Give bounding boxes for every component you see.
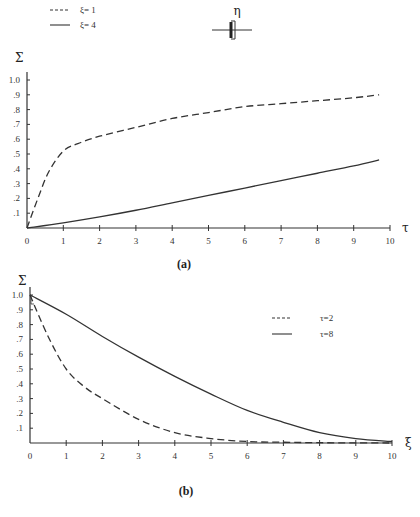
figure-canvas: η 012345678910.1.2.3.4.5.6.7.8.91.0Στξ= … — [0, 0, 420, 517]
x-tick-label: 9 — [354, 451, 359, 461]
x-tick-label: 7 — [279, 236, 284, 246]
y-tick-label: .2 — [13, 193, 20, 203]
x-tick-label: 6 — [243, 236, 248, 246]
x-axis-label: ξ — [405, 436, 412, 450]
series-line — [27, 160, 379, 228]
y-tick-label: .6 — [13, 134, 20, 144]
y-tick-label: .6 — [16, 349, 23, 359]
x-tick-label: 6 — [245, 451, 250, 461]
figure-caption: (b) — [179, 484, 194, 498]
y-tick-label: .1 — [13, 208, 20, 218]
x-tick-label: 4 — [173, 451, 178, 461]
y-tick-label: .4 — [13, 164, 20, 174]
y-tick-label: .1 — [16, 423, 23, 433]
y-tick-label: .5 — [13, 149, 20, 159]
y-axis-label: Σ — [15, 51, 23, 65]
x-tick-label: 5 — [206, 236, 211, 246]
legend-label: ξ= 4 — [80, 20, 96, 30]
y-tick-label: .3 — [13, 179, 20, 189]
x-tick-label: 8 — [317, 451, 322, 461]
y-tick-label: .3 — [16, 394, 23, 404]
y-tick-label: .7 — [13, 119, 20, 129]
y-tick-label: .5 — [16, 364, 23, 374]
legend-label: τ=2 — [320, 313, 333, 323]
y-tick-label: .8 — [13, 105, 20, 115]
x-tick-label: 9 — [351, 236, 356, 246]
series-line — [27, 95, 379, 228]
element-icon — [212, 21, 252, 39]
y-tick-label: .4 — [16, 379, 23, 389]
x-tick-label: 3 — [134, 236, 139, 246]
x-tick-label: 10 — [388, 451, 398, 461]
x-tick-label: 0 — [25, 236, 30, 246]
y-tick-label: .2 — [16, 408, 23, 418]
x-tick-label: 3 — [136, 451, 141, 461]
y-tick-label: 1.0 — [9, 75, 21, 85]
x-tick-label: 7 — [281, 451, 286, 461]
figure-caption: (a) — [177, 257, 191, 271]
chart-b: 012345678910.1.2.3.4.5.6.7.8.91.0Σξτ=2τ=… — [12, 274, 412, 498]
eta-symbol: η — [233, 4, 240, 18]
x-tick-label: 8 — [315, 236, 320, 246]
y-tick-label: 1.0 — [12, 290, 24, 300]
x-tick-label: 4 — [170, 236, 175, 246]
y-tick-label: .8 — [16, 320, 23, 330]
x-tick-label: 2 — [97, 236, 102, 246]
y-tick-label: .9 — [16, 305, 23, 315]
x-tick-label: 0 — [28, 451, 33, 461]
y-tick-label: .9 — [13, 90, 20, 100]
x-tick-label: 2 — [100, 451, 105, 461]
x-tick-label: 1 — [61, 236, 66, 246]
x-tick-label: 10 — [386, 236, 396, 246]
legend-label: τ=8 — [320, 329, 334, 339]
y-tick-label: .7 — [16, 334, 23, 344]
y-axis-label: Σ — [18, 274, 26, 288]
x-tick-label: 5 — [209, 451, 214, 461]
legend-label: ξ= 1 — [80, 5, 96, 15]
series-line — [30, 295, 392, 442]
x-tick-label: 1 — [64, 451, 69, 461]
series-line — [30, 295, 392, 443]
chart-a: 012345678910.1.2.3.4.5.6.7.8.91.0Στξ= 1ξ… — [9, 5, 409, 271]
x-axis-label: τ — [402, 221, 409, 235]
